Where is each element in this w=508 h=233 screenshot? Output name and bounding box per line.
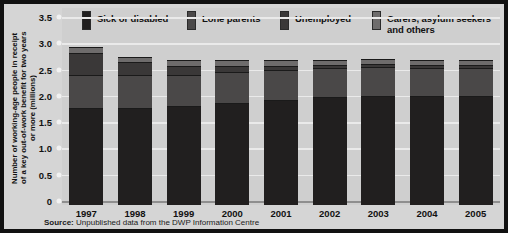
y-tick-label: 2.0 (18, 90, 52, 101)
bar-segment-1 (459, 68, 493, 95)
bar-segment-2 (69, 53, 103, 76)
y-tick-dot (57, 67, 62, 72)
bar-segment-1 (69, 75, 103, 108)
y-tick-dot (57, 120, 62, 125)
source-label: Source: (44, 218, 74, 227)
bar-1997 (69, 47, 103, 205)
y-tick-label: 3.5 (18, 12, 52, 23)
bar-segment-0 (215, 103, 249, 206)
y-tick-dot (57, 146, 62, 151)
bar-2001 (264, 60, 298, 205)
chart-frame: Number of working-age people in receipt … (4, 4, 504, 229)
y-tick-dot (57, 15, 62, 20)
bar-segment-0 (167, 106, 201, 205)
bar-segment-0 (410, 96, 444, 205)
x-tick-label-2002: 2002 (307, 208, 353, 219)
bar-2002 (313, 60, 347, 205)
bar-segment-1 (167, 75, 201, 107)
bar-1998 (118, 57, 152, 205)
bar-2000 (215, 60, 249, 205)
y-tick-dot (57, 41, 62, 46)
x-tick-label-2005: 2005 (453, 208, 499, 219)
y-tick-dot (57, 172, 62, 177)
y-tick-dot (57, 93, 62, 98)
source-note: Source: Unpublished data from the DWP In… (44, 218, 259, 227)
bar-segment-0 (313, 97, 347, 205)
source-text: Unpublished data from the DWP Informatio… (74, 218, 259, 227)
y-tick-label: 0.5 (18, 169, 52, 180)
x-tick-label-2004: 2004 (404, 208, 450, 219)
bar-segment-1 (264, 70, 298, 99)
y-tick-dot (57, 199, 62, 204)
bar-segment-2 (167, 66, 201, 74)
y-tick-label: 1.5 (18, 117, 52, 128)
x-tick-label-2001: 2001 (258, 208, 304, 219)
x-tick-label-2003: 2003 (355, 208, 401, 219)
bar-segment-2 (118, 62, 152, 75)
bar-2004 (410, 60, 444, 205)
bar-2003 (361, 59, 395, 205)
bars-layer (62, 8, 500, 205)
bar-segment-1 (410, 68, 444, 96)
bar-segment-0 (264, 100, 298, 205)
bar-2005 (459, 60, 493, 205)
chart-screenshot: Number of working-age people in receipt … (0, 0, 508, 233)
bar-segment-0 (459, 96, 493, 205)
y-tick-label: 0 (18, 196, 52, 207)
bar-segment-1 (313, 68, 347, 97)
bar-segment-0 (118, 108, 152, 205)
bar-segment-0 (69, 108, 103, 205)
bar-1999 (167, 60, 201, 205)
bar-segment-0 (361, 96, 395, 205)
bar-segment-1 (118, 75, 152, 108)
y-tick-label: 3.0 (18, 38, 52, 49)
bar-segment-1 (361, 67, 395, 95)
y-tick-label: 2.5 (18, 64, 52, 75)
bar-segment-1 (215, 72, 249, 102)
y-tick-label: 1.0 (18, 143, 52, 154)
